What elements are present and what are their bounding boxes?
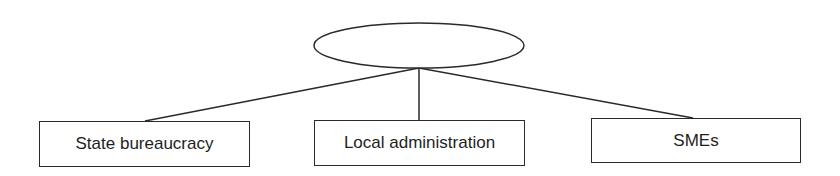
node-state-bureaucracy: State bureaucracy bbox=[39, 121, 250, 167]
connector-to-state-bureaucracy bbox=[145, 68, 419, 121]
diagram-canvas: State bureaucracy Local administration S… bbox=[0, 0, 840, 176]
root-node-ellipse bbox=[314, 23, 524, 68]
node-label: State bureaucracy bbox=[76, 134, 214, 154]
node-label: SMEs bbox=[673, 131, 718, 151]
node-label: Local administration bbox=[344, 133, 495, 153]
node-local-administration: Local administration bbox=[314, 120, 525, 166]
node-smes: SMEs bbox=[591, 118, 801, 163]
connector-to-smes bbox=[419, 68, 693, 118]
